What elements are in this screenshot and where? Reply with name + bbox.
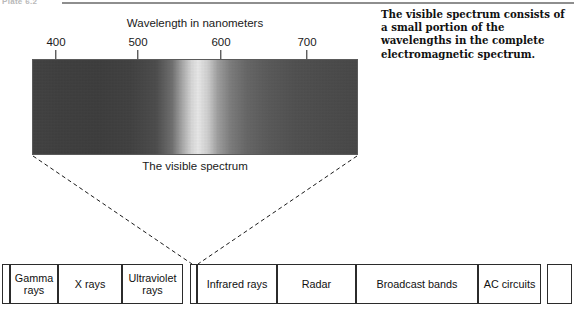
em-band-cell-radar: Radar (277, 264, 356, 304)
tick-label-700: 700 (297, 36, 316, 48)
visible-spectrum-figure: Wavelength in nanometers 400 500 600 700… (0, 0, 380, 180)
em-band-cell-visible-light (190, 264, 197, 304)
em-band-cell-edge-right (547, 264, 572, 304)
em-band-cell-ultraviolet-rays: Ultraviolet rays (122, 264, 183, 304)
tick-mark-500 (137, 50, 138, 59)
em-band-cell-broadcast-bands: Broadcast bands (356, 264, 478, 304)
electromagnetic-spectrum-table: Gamma rays X rays Ultraviolet rays Infra… (2, 264, 572, 304)
tick-mark-700 (306, 50, 307, 59)
em-band-cell-gamma-rays: Gamma rays (10, 264, 58, 304)
em-band-cell-infrared-rays: Infrared rays (197, 264, 277, 304)
description-text: The visible spectrum consists of a small… (381, 8, 573, 61)
spectrum-caption: The visible spectrum (32, 160, 358, 172)
em-band-cell-edge-left (2, 264, 10, 304)
spectrum-band (32, 59, 358, 155)
em-band-cell-x-rays: X rays (58, 264, 122, 304)
tick-label-500: 500 (128, 36, 147, 48)
axis-title: Wavelength in nanometers (32, 17, 358, 29)
spectrum-grain-overlay (33, 60, 357, 154)
tick-mark-400 (55, 50, 56, 59)
tick-label-400: 400 (46, 36, 65, 48)
tick-label-600: 600 (211, 36, 230, 48)
em-band-cell-ac-circuits: AC circuits (478, 264, 541, 304)
tick-mark-600 (220, 50, 221, 59)
